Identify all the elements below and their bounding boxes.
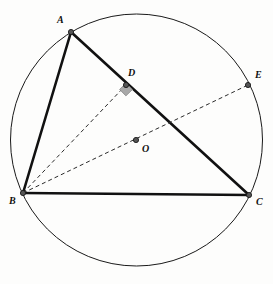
geometry-canvas bbox=[0, 0, 273, 284]
geometry-figure: A B C D E O bbox=[0, 0, 273, 284]
vertex-group bbox=[20, 29, 251, 197]
point-label-b: B bbox=[9, 196, 16, 206]
point-label-a: A bbox=[57, 15, 64, 25]
point-label-e: E bbox=[255, 70, 262, 80]
segment-bc bbox=[23, 193, 249, 195]
point-label-d: D bbox=[128, 68, 135, 78]
vertex-point-d bbox=[123, 82, 128, 87]
vertex-point-a bbox=[68, 29, 73, 34]
segment-ac bbox=[71, 32, 249, 195]
point-label-o: O bbox=[142, 144, 149, 154]
segment-group bbox=[23, 32, 249, 195]
segment-ab bbox=[23, 32, 71, 193]
vertex-point-b bbox=[20, 190, 25, 195]
vertex-point-e bbox=[245, 82, 250, 87]
point-label-c: C bbox=[256, 197, 263, 207]
center-point-o bbox=[133, 137, 138, 142]
vertex-point-c bbox=[246, 192, 251, 197]
